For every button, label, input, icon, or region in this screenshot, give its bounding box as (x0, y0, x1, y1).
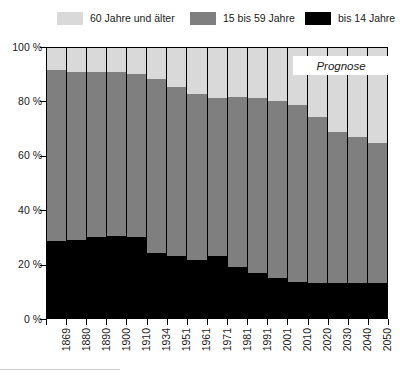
y-axis-tick (40, 319, 46, 320)
bar-segment-bis-14-jahre (87, 237, 106, 318)
bar-1880 (67, 48, 87, 318)
y-axis-tick-label: 100 % (2, 42, 42, 52)
x-axis-label-2050: 2050 (382, 328, 393, 351)
bar-segment-bis-14-jahre (368, 283, 387, 318)
bar-1910 (127, 48, 147, 318)
bar-1890 (87, 48, 107, 318)
x-axis-label-1900: 1900 (121, 328, 132, 351)
bar-segment-60-jahre-und-lter (187, 48, 206, 94)
bar-segment-bis-14-jahre (228, 267, 247, 318)
x-axis-label-2040: 2040 (362, 328, 373, 351)
x-axis-tick (147, 319, 148, 325)
y-axis-tick-label: 40 % (2, 205, 42, 215)
bar-segment-bis-14-jahre (208, 256, 227, 318)
bar-segment-60-jahre-und-lter (208, 48, 227, 98)
x-axis-label-1890: 1890 (101, 328, 112, 351)
y-axis-labels: 100 %80 %60 %40 %20 %0 % (0, 0, 42, 376)
bar-segment-bis-14-jahre (107, 236, 126, 318)
bar-segment-60-jahre-und-lter (47, 48, 66, 70)
y-axis-tick (40, 101, 46, 102)
x-axis-label-1934: 1934 (161, 328, 172, 351)
bar-segment-15-bis-59-jahre (147, 79, 166, 253)
stacked-bar-chart: 100 %80 %60 %40 %20 %0 % Prognose 186918… (0, 0, 415, 376)
bar-segment-60-jahre-und-lter (127, 48, 146, 74)
bar-segment-bis-14-jahre (288, 282, 307, 318)
bar-segment-60-jahre-und-lter (107, 48, 126, 72)
x-axis: 1869188018901900191019341951196119711981… (46, 319, 388, 376)
bar-segment-bis-14-jahre (67, 240, 86, 318)
x-axis-tick (167, 319, 168, 325)
bar-segment-15-bis-59-jahre (268, 101, 287, 278)
x-axis-label-1869: 1869 (61, 328, 72, 351)
x-axis-label-2030: 2030 (342, 328, 353, 351)
x-axis-label-1910: 1910 (141, 328, 152, 351)
x-axis-tick (287, 319, 288, 325)
bar-segment-60-jahre-und-lter (87, 48, 106, 72)
bar-segment-60-jahre-und-lter (248, 48, 267, 98)
bar-segment-15-bis-59-jahre (308, 117, 327, 283)
bar-segment-60-jahre-und-lter (67, 48, 86, 72)
bar-segment-15-bis-59-jahre (328, 132, 347, 283)
x-axis-tick (308, 319, 309, 325)
bar-segment-60-jahre-und-lter (147, 48, 166, 79)
bar-segment-bis-14-jahre (268, 278, 287, 319)
x-axis-tick (187, 319, 188, 325)
y-axis-tick-label: 80 % (2, 96, 42, 106)
bar-segment-15-bis-59-jahre (167, 87, 186, 256)
bar-segment-bis-14-jahre (328, 283, 347, 318)
bar-1961 (187, 48, 207, 318)
y-axis-tick (40, 47, 46, 48)
bar-1991 (248, 48, 268, 318)
bar-segment-15-bis-59-jahre (87, 72, 106, 237)
bar-1981 (228, 48, 248, 318)
x-axis-tick (267, 319, 268, 325)
bar-1934 (147, 48, 167, 318)
y-axis-tick-label: 0 % (2, 314, 42, 324)
x-axis-label-1971: 1971 (222, 328, 233, 351)
x-axis-label-1880: 1880 (81, 328, 92, 351)
x-axis-tick (106, 319, 107, 325)
x-axis-tick (46, 319, 47, 325)
bar-1900 (107, 48, 127, 318)
bar-1869 (47, 48, 67, 318)
y-axis-tick (40, 210, 46, 211)
bar-segment-bis-14-jahre (147, 253, 166, 318)
bar-segment-60-jahre-und-lter (268, 48, 287, 101)
y-axis-tick (40, 265, 46, 266)
x-axis-label-1991: 1991 (262, 328, 273, 351)
x-axis-tick (66, 319, 67, 325)
x-axis-tick (368, 319, 369, 325)
x-axis-tick (328, 319, 329, 325)
y-axis-tick-label: 20 % (2, 259, 42, 269)
x-axis-label-2020: 2020 (322, 328, 333, 351)
bar-segment-bis-14-jahre (127, 237, 146, 318)
bar-segment-60-jahre-und-lter (228, 48, 247, 97)
x-axis-tick (348, 319, 349, 325)
bar-segment-bis-14-jahre (248, 273, 267, 318)
x-axis-tick (388, 319, 389, 325)
bar-segment-15-bis-59-jahre (348, 137, 367, 283)
prognose-annotation: Prognose (293, 56, 389, 75)
bar-segment-bis-14-jahre (348, 283, 367, 318)
bar-segment-15-bis-59-jahre (228, 97, 247, 267)
x-axis-label-1961: 1961 (201, 328, 212, 351)
x-axis-tick (86, 319, 87, 325)
bar-segment-bis-14-jahre (47, 241, 66, 318)
x-axis-label-1951: 1951 (181, 328, 192, 351)
bar-segment-bis-14-jahre (187, 260, 206, 318)
bar-2001 (268, 48, 288, 318)
bar-2020 (308, 48, 328, 318)
bar-2050 (368, 48, 388, 318)
bar-segment-15-bis-59-jahre (47, 70, 66, 241)
bar-1951 (167, 48, 187, 318)
bar-segment-15-bis-59-jahre (368, 143, 387, 283)
footer-divider (0, 369, 120, 370)
x-axis-tick (207, 319, 208, 325)
x-axis-tick (126, 319, 127, 325)
x-axis-label-2010: 2010 (302, 328, 313, 351)
x-axis-tick (247, 319, 248, 325)
bar-segment-15-bis-59-jahre (248, 98, 267, 274)
bar-segment-15-bis-59-jahre (107, 72, 126, 235)
bar-segment-15-bis-59-jahre (187, 94, 206, 260)
bar-2010 (288, 48, 308, 318)
